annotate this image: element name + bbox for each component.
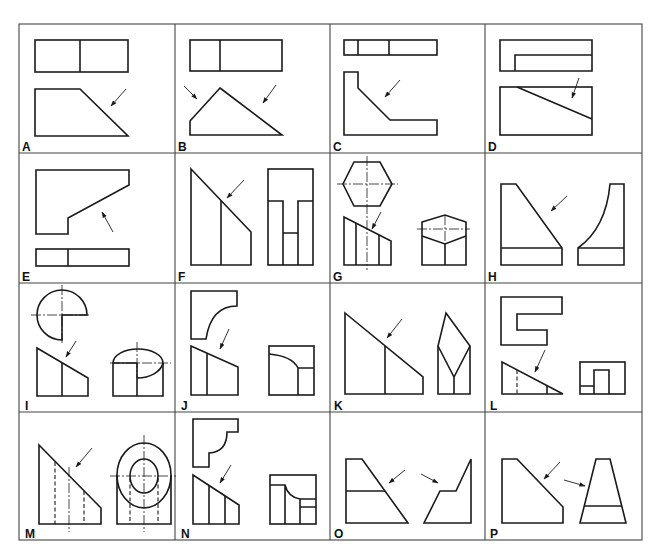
panel-j: J [181,291,314,413]
panel-m: M [25,435,176,541]
front-view [36,249,129,266]
panel-label: N [181,527,190,541]
panel-l: L [490,297,625,413]
front-view [500,87,592,135]
panel-label: D [488,140,497,154]
side-view [268,169,313,265]
front-view [501,184,562,265]
pointer-arrow-icon [572,78,579,98]
top-view [193,419,238,467]
panel-k: K [334,313,470,413]
panel-grid [19,24,642,540]
panel-p: P [490,459,626,541]
panel-label: B [178,140,187,154]
pointer-arrow-icon [227,180,244,198]
panel-g: G [333,156,470,284]
front-view [502,362,563,394]
side-view [424,459,471,523]
front-view [344,72,437,135]
pointer-arrow-icon [551,196,567,211]
panel-label: I [25,399,28,413]
panel-e: E [22,170,129,284]
front-view [39,445,101,524]
pointer-arrow-icon [535,350,545,372]
pointer-arrow-icon [66,341,76,357]
panel-label: H [488,270,497,284]
panel-f: F [178,169,313,284]
top-view [191,291,237,339]
front-view [345,313,423,394]
panel-label: G [333,270,342,284]
top-view [190,40,282,71]
pointer-arrow-icon [421,474,438,483]
pointer-arrow-icon [387,319,402,338]
pointer-arrow-icon [372,212,381,229]
panel-label: J [181,399,188,413]
front-view [193,475,239,524]
side-view [578,184,624,265]
pointer-arrow-icon [564,480,585,486]
panel-label: F [178,270,185,284]
panel-label: A [22,140,31,154]
pointer-arrow-icon [184,86,197,99]
pointer-arrow-icon [220,465,231,483]
panel-n: N [181,419,316,541]
side-view [580,362,625,394]
pointer-arrow-icon [385,80,400,97]
pointer-arrow-icon [111,89,126,106]
panel-label: C [333,140,342,154]
pointer-arrow-icon [220,329,229,349]
panel-h: H [488,184,624,284]
panel-o: O [334,459,471,541]
front-view [35,89,128,136]
side-view [269,346,314,395]
panel-label: P [490,527,498,541]
panel-label: L [490,399,497,413]
pointer-arrow-icon [389,470,405,483]
side-view [580,459,626,523]
top-view [501,297,562,345]
front-view [344,217,391,265]
pointer-arrow-icon [102,212,113,232]
front-view [191,346,238,395]
side-view [422,215,466,265]
panel-b: B [178,40,282,154]
panel-d: D [488,40,592,154]
top-view [35,40,128,72]
panel-label: M [25,527,35,541]
top-view [36,170,129,234]
panel-i: I [25,285,171,413]
pointer-arrow-icon [76,448,92,467]
drawing-sheet: A B C D E [0,0,660,558]
panel-c: C [333,40,437,154]
panel-label: O [334,527,343,541]
panel-label: E [22,270,30,284]
panel-label: K [334,399,343,413]
pointer-arrow-icon [263,85,276,103]
panel-a: A [22,40,128,154]
pointer-arrow-icon [544,462,560,479]
